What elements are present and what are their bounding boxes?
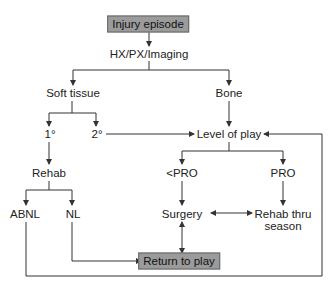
node-injury-episode: Injury episode [107, 16, 189, 33]
flowchart-connectors [0, 0, 334, 286]
node-abnl: ABNL [10, 208, 40, 221]
node-pro: PRO [271, 167, 296, 180]
node-rehab-thru-season: Rehab thru season [253, 208, 313, 232]
arrow-nl-to-return [72, 222, 141, 261]
node-primary: 1° [45, 128, 56, 141]
node-less-than-pro: <PRO [166, 167, 198, 180]
node-secondary: 2° [92, 128, 103, 141]
node-bone: Bone [216, 87, 243, 100]
node-hx-px-imaging: HX/PX/Imaging [110, 48, 189, 61]
node-surgery: Surgery [162, 208, 202, 221]
node-nl: NL [66, 208, 81, 221]
node-level-of-play: Level of play [197, 128, 262, 141]
node-rehab: Rehab [32, 167, 66, 180]
node-return-to-play: Return to play [138, 253, 220, 270]
node-soft-tissue: Soft tissue [46, 87, 100, 100]
